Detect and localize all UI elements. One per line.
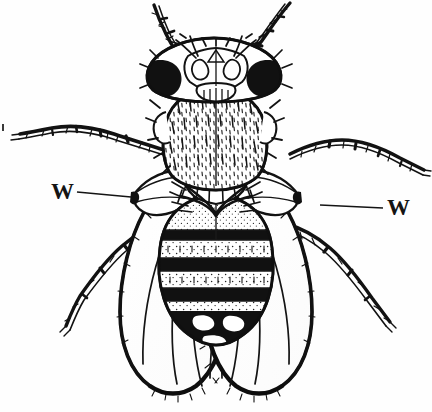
label-w-right: W (387, 196, 410, 219)
fly-line-drawing (0, 0, 432, 412)
label-w-left: W (51, 180, 74, 203)
fly-figure: W W (0, 0, 432, 412)
scan-artifact (2, 124, 4, 131)
